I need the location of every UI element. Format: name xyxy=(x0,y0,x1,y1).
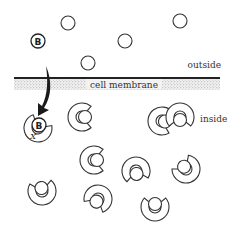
diagram-canvas: cell membrane outside inside B BX xyxy=(0,0,248,230)
receptor xyxy=(27,179,59,207)
outside-molecules xyxy=(61,14,187,70)
outside-label: outside xyxy=(188,60,221,70)
entry-arrow-icon xyxy=(38,66,50,116)
membrane-label: cell membrane xyxy=(90,80,158,90)
blocked-mark-icon: X xyxy=(29,132,36,141)
receptor xyxy=(68,103,92,131)
ligand-b-letter: B xyxy=(35,37,42,47)
receptor xyxy=(166,103,194,127)
bound-ligand-b-letter: B xyxy=(36,121,43,131)
bound-receptor: BX xyxy=(19,113,55,147)
ligand-b: B xyxy=(31,34,45,48)
molecule-circle xyxy=(81,56,95,70)
binding-site-circle xyxy=(91,154,104,167)
molecule-circle xyxy=(173,14,187,28)
inside-label: inside xyxy=(200,114,227,124)
binding-site-circle xyxy=(174,114,187,127)
receptor xyxy=(80,146,104,174)
binding-site-circle xyxy=(79,111,92,124)
receptors xyxy=(27,103,206,221)
receptor xyxy=(120,155,152,183)
receptor xyxy=(169,153,206,189)
molecule-circle xyxy=(118,34,132,48)
receptor xyxy=(141,198,169,222)
receptor-diagram: cell membrane outside inside B BX xyxy=(0,0,248,230)
receptor xyxy=(81,180,117,214)
molecule-circle xyxy=(61,16,75,30)
binding-site-circle xyxy=(149,198,162,211)
